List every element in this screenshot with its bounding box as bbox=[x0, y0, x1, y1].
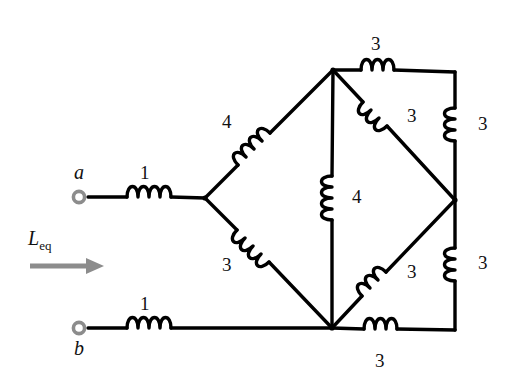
leq-subscript: eq bbox=[39, 238, 51, 253]
inductor-value-right-lower: 3 bbox=[478, 253, 488, 272]
inductor-value-top-horizontal: 3 bbox=[371, 34, 381, 53]
leq-arrow-icon bbox=[30, 258, 104, 274]
inductor-value-left-upper: 4 bbox=[222, 112, 232, 131]
branch-top-diagonal-3h bbox=[333, 70, 455, 200]
branch-center-vertical-4h bbox=[322, 70, 334, 328]
branch-b-series bbox=[88, 318, 332, 329]
branch-left-upper-4h bbox=[205, 70, 333, 198]
terminal-b-node[interactable] bbox=[73, 322, 84, 333]
branch-bottom-diagonal-3h bbox=[332, 200, 455, 328]
branch-right-lower-3h bbox=[445, 200, 456, 330]
inductor-value-b-series: 1 bbox=[140, 294, 150, 313]
inductor-value-bottom-diagonal: 3 bbox=[407, 262, 417, 281]
branch-a-series bbox=[88, 187, 205, 199]
leq-label: Leq bbox=[28, 228, 51, 252]
inductor-value-top-diagonal: 3 bbox=[407, 106, 417, 125]
inductor-value-right-upper: 3 bbox=[478, 114, 488, 133]
inductor-value-a-series: 1 bbox=[140, 163, 150, 182]
branch-top-horizontal-3h bbox=[333, 60, 455, 73]
leq-symbol: L bbox=[28, 227, 39, 249]
branch-bottom-horizontal-3h bbox=[332, 319, 455, 331]
terminal-markers bbox=[73, 191, 84, 333]
branch-right-upper-3h bbox=[445, 72, 456, 200]
terminal-a-node[interactable] bbox=[73, 191, 84, 202]
terminal-b-label: b bbox=[74, 338, 84, 358]
circuit-diagram: a b Leq 1 1 4 3 4 3 3 3 3 3 3 bbox=[0, 0, 519, 390]
inductor-value-left-lower: 3 bbox=[222, 255, 232, 274]
inductor-value-bottom-horizontal: 3 bbox=[375, 351, 385, 370]
terminal-a-label: a bbox=[74, 162, 84, 182]
circuit-schematic-svg bbox=[0, 0, 519, 390]
inductor-value-center-vertical: 4 bbox=[352, 187, 362, 206]
